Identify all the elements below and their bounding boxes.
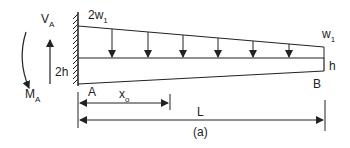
distributed-load — [78, 26, 324, 58]
dimension-L-label: L — [197, 105, 204, 119]
depth-left-label: 2h — [55, 65, 68, 79]
depth-right-label: h — [329, 59, 336, 73]
load-right-label: w1 — [321, 27, 336, 44]
dimension-x0-label: xo — [119, 87, 130, 104]
cantilever-beam-diagram: VA MA 2w1 w1 2h h A B xo L (a) — [0, 0, 350, 148]
moment-reaction-arrow-icon — [22, 32, 29, 88]
shear-label: VA — [41, 12, 55, 29]
moment-label: MA — [25, 87, 41, 104]
tapered-beam — [78, 58, 324, 84]
load-arrows — [112, 29, 289, 57]
load-left-label: 2w1 — [88, 8, 108, 25]
fixed-support-wall — [73, 12, 78, 86]
figure-caption: (a) — [193, 125, 208, 139]
point-b-label: B — [313, 77, 321, 91]
point-a-label: A — [88, 85, 96, 99]
